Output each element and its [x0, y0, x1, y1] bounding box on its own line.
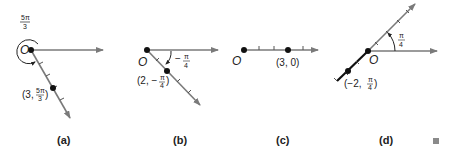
- point-label-suffix: ): [166, 75, 169, 86]
- point-label-suffix: ): [45, 89, 48, 100]
- point-label-suffix: ): [374, 78, 377, 89]
- point-label-prefix: (3,: [22, 89, 34, 100]
- panel-a: O 5π 3 (3, 5π 3 ) (a): [17, 14, 103, 146]
- point-marker: [345, 68, 351, 74]
- angle-label-den: 4: [399, 41, 403, 48]
- point-marker: [164, 68, 170, 74]
- point-label-den: 3: [38, 95, 42, 102]
- terminal-ray: [31, 50, 70, 118]
- origin-label: O: [232, 54, 241, 68]
- angle-label-num: π: [399, 32, 404, 39]
- origin-label: O: [20, 43, 29, 57]
- negative-extension: [337, 51, 368, 81]
- panel-b: O − π 4 (2, − π 4 ) (b): [137, 47, 218, 146]
- point-marker: [50, 85, 56, 91]
- point-label-num: 5π: [36, 87, 45, 94]
- point-label-num: π: [160, 74, 165, 81]
- caption-d: (d): [379, 134, 393, 146]
- polar-points-diagram: O 5π 3 (3, 5π 3 ) (a) O − π 4 (2, − π 4 …: [0, 0, 454, 156]
- origin-label: O: [138, 55, 147, 69]
- caption-a: (a): [57, 134, 71, 146]
- caption-b: (b): [173, 134, 187, 146]
- caption-c: (c): [276, 134, 290, 146]
- point-label-num: π: [368, 76, 373, 83]
- angle-label-num: π: [184, 53, 189, 60]
- origin-dot: [144, 47, 150, 53]
- end-of-proof-square: [433, 138, 439, 144]
- origin-dot: [241, 47, 247, 53]
- panel-c: O (3, 0) (c): [232, 46, 318, 146]
- origin-label: O: [369, 53, 378, 67]
- point-label-den: 4: [160, 82, 164, 89]
- angle-label-den: 3: [23, 23, 27, 30]
- point-label-den: 4: [368, 84, 372, 91]
- angle-label-num: 5π: [21, 14, 30, 21]
- angle-arc: [388, 33, 395, 51]
- point-label-prefix: (−2,: [344, 78, 362, 89]
- point-label: (3, 0): [276, 57, 299, 68]
- point-marker: [285, 47, 291, 53]
- angle-arc: [166, 51, 171, 64]
- angle-label-den: 4: [184, 62, 188, 69]
- angle-label-sign: −: [175, 53, 181, 64]
- point-label-prefix: (2, −: [137, 75, 157, 86]
- terminal-ray: [368, 4, 415, 51]
- tick-marks: [39, 62, 64, 100]
- panel-d: O π 4 (−2, π 4 ) (d): [334, 4, 437, 146]
